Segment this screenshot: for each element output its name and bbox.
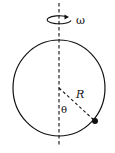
bead xyxy=(92,118,98,124)
hoop-diagram: ω R θ xyxy=(0,0,115,153)
radius-label: R xyxy=(75,88,84,101)
omega-label: ω xyxy=(76,14,85,27)
angle-label: θ xyxy=(61,104,67,115)
